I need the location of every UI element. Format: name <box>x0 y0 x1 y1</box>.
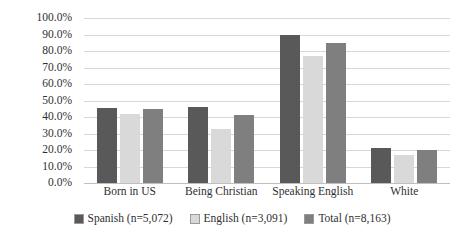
legend-item: Spanish (n=5,072) <box>74 213 173 225</box>
y-axis-tick-label: 20.0% <box>42 144 72 156</box>
y-axis-tick-label: 40.0% <box>42 111 72 123</box>
y-axis-tick-label: 70.0% <box>42 62 72 74</box>
bar <box>120 114 140 183</box>
bar <box>97 108 117 183</box>
legend-swatch-icon <box>190 214 200 224</box>
legend-label: Spanish (n=5,072) <box>88 213 173 225</box>
bar-group-bars <box>267 18 359 183</box>
legend-swatch-icon <box>304 214 314 224</box>
y-axis-tick-label: 0.0% <box>48 177 72 189</box>
y-axis-tick-label: 10.0% <box>42 161 72 173</box>
y-axis-tick-labels: 100.0%90.0%80.0%70.0%60.0%50.0%40.0%30.0… <box>0 18 78 183</box>
x-axis-category-label: Born in US <box>84 186 176 198</box>
bar <box>417 150 437 183</box>
bar <box>394 155 414 183</box>
x-axis-category-label: Being Christian <box>176 186 268 198</box>
bar <box>371 148 391 183</box>
legend-label: English (n=3,091) <box>204 213 288 225</box>
bar <box>280 35 300 183</box>
bar <box>326 43 346 183</box>
legend-label: Total (n=8,163) <box>318 213 390 225</box>
bar-group-bars <box>84 18 176 183</box>
chart-legend: Spanish (n=5,072)English (n=3,091)Total … <box>0 213 464 225</box>
bar-group <box>267 18 359 183</box>
x-axis-category-label: White <box>359 186 451 198</box>
y-axis-tick-label: 80.0% <box>42 45 72 57</box>
bar-groups <box>84 18 450 183</box>
bar <box>234 115 254 183</box>
bar-chart: 100.0%90.0%80.0%70.0%60.0%50.0%40.0%30.0… <box>0 0 464 242</box>
bar-group-bars <box>359 18 451 183</box>
bar <box>211 129 231 183</box>
x-axis-category-labels: Born in USBeing ChristianSpeaking Englis… <box>84 186 450 198</box>
axis-baseline <box>84 183 450 184</box>
y-axis-tick-label: 50.0% <box>42 95 72 107</box>
x-axis-category-label: Speaking English <box>267 186 359 198</box>
y-axis-tick-label: 100.0% <box>37 12 72 24</box>
legend-item: English (n=3,091) <box>190 213 288 225</box>
bar <box>188 107 208 183</box>
bar <box>303 56 323 183</box>
bar-group-bars <box>176 18 268 183</box>
bar-group <box>84 18 176 183</box>
y-axis-tick-label: 90.0% <box>42 29 72 41</box>
legend-swatch-icon <box>74 214 84 224</box>
y-axis-tick-label: 60.0% <box>42 78 72 90</box>
bar <box>143 109 163 183</box>
bar-group <box>176 18 268 183</box>
legend-item: Total (n=8,163) <box>304 213 390 225</box>
plot-area <box>84 18 450 183</box>
y-axis-tick-label: 30.0% <box>42 128 72 140</box>
bar-group <box>359 18 451 183</box>
